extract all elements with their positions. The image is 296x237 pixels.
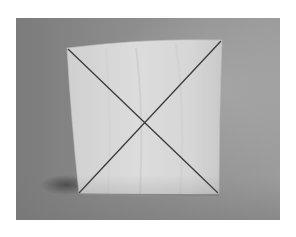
image-description: Grayscale photograph of a standing squar… xyxy=(0,0,1,1)
paper-bottom-edge xyxy=(79,194,219,195)
paper-scene xyxy=(16,18,280,220)
paper-sheet xyxy=(67,40,222,195)
paper-shadow xyxy=(40,175,92,195)
photograph xyxy=(16,18,280,220)
